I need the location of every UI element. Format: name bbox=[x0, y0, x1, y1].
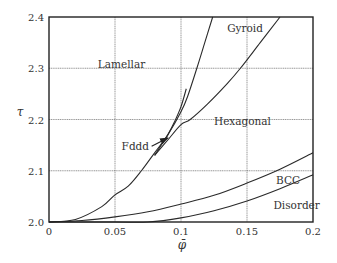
region-label-fddd: Fddd bbox=[122, 140, 150, 152]
region-label-hexagonal: Hexagonal bbox=[214, 115, 272, 127]
y-tick-label: 2.4 bbox=[28, 12, 44, 23]
y-axis-ticks: 2.02.12.22.32.4 bbox=[28, 12, 44, 228]
y-tick-label: 2.3 bbox=[28, 63, 44, 74]
x-axis-label: φ̄ bbox=[178, 238, 187, 252]
phase-boundary-curve bbox=[155, 89, 187, 156]
y-axis-label: τ bbox=[17, 105, 24, 119]
x-tick-label: 0.2 bbox=[305, 226, 321, 237]
x-tick-label: 0.15 bbox=[236, 226, 258, 237]
region-label-gyroid: Gyroid bbox=[227, 22, 263, 34]
x-tick-label: 0 bbox=[46, 226, 52, 237]
y-tick-label: 2.2 bbox=[28, 115, 44, 126]
chart-svg: 00.050.10.150.2 2.02.12.22.32.4 Lamellar… bbox=[0, 0, 337, 263]
x-tick-label: 0.05 bbox=[104, 226, 126, 237]
region-label-lamellar: Lamellar bbox=[98, 58, 146, 70]
region-label-disorder: Disorder bbox=[273, 199, 320, 211]
phase-diagram-chart: 00.050.10.150.2 2.02.12.22.32.4 Lamellar… bbox=[0, 0, 337, 263]
phase-boundary-curve bbox=[155, 17, 280, 155]
region-label-bcc: BCC bbox=[276, 174, 300, 186]
y-tick-label: 2.0 bbox=[28, 217, 44, 228]
x-axis-ticks: 00.050.10.150.2 bbox=[46, 226, 321, 237]
y-tick-label: 2.1 bbox=[28, 166, 44, 177]
x-tick-label: 0.1 bbox=[173, 226, 189, 237]
